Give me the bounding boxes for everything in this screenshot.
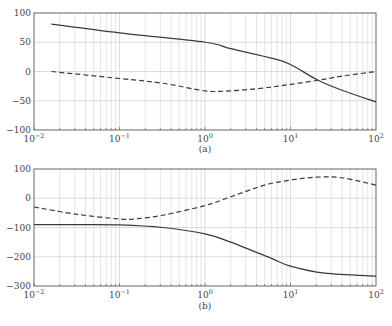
x-tick-label: 101 [283, 288, 299, 300]
x-tick-label: 10−2 [23, 132, 44, 144]
y-tick-label: 0 [25, 67, 31, 77]
y-tick-label: −50 [12, 96, 31, 106]
x-tick-label: 10−2 [23, 288, 44, 300]
solid-series-line [51, 24, 376, 102]
y-tick-label: 50 [20, 37, 32, 47]
x-tick-label: 100 [197, 288, 213, 300]
grid-lines [34, 169, 376, 286]
y-tick-label: 100 [14, 164, 31, 174]
caption-a: (a) [199, 144, 211, 154]
caption-b: (b) [199, 301, 212, 311]
x-tick-label: 101 [283, 132, 299, 144]
y-tick-label: 100 [14, 8, 31, 18]
x-tick-label: 102 [368, 288, 384, 300]
bode-figure: 100500−50−10010−210−1100101102 1000−100−… [0, 0, 392, 326]
y-tick-label: −200 [6, 252, 31, 262]
y-tick-label: −100 [6, 223, 31, 233]
x-tick-label: 100 [197, 132, 213, 144]
x-tick-label: 10−1 [109, 132, 130, 144]
x-tick-label: 102 [368, 132, 384, 144]
chart-panel-b: 1000−100−200−30010−210−1100101102 [6, 164, 384, 300]
dashed-series-line [51, 72, 376, 92]
x-tick-label: 10−1 [109, 288, 130, 300]
y-tick-label: 0 [25, 193, 31, 203]
grid-lines [34, 13, 376, 130]
chart-panel-a: 100500−50−10010−210−1100101102 [6, 8, 384, 144]
